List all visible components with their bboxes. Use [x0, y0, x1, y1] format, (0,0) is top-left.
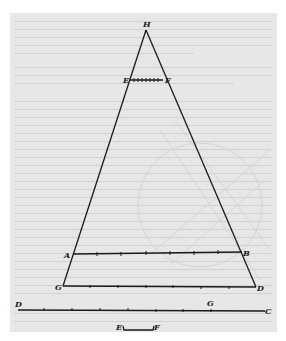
geometric-diagram: H E F A B G D D G C E F — [0, 0, 286, 341]
label-D: D — [256, 283, 264, 293]
base-GD — [63, 286, 256, 287]
side-HG — [63, 30, 146, 286]
label-H: H — [142, 19, 151, 29]
label-bracket-E: E — [115, 322, 123, 332]
side-HD — [146, 30, 256, 287]
label-G: G — [55, 282, 62, 292]
label-line-G: G — [207, 298, 214, 308]
division-ticks — [44, 78, 229, 312]
label-F: F — [164, 75, 172, 85]
label-line-C: C — [265, 306, 272, 316]
line-DC — [18, 310, 265, 311]
label-B: B — [242, 248, 250, 258]
label-E: E — [122, 75, 130, 85]
segment-AB — [73, 252, 242, 254]
label-A: A — [63, 250, 70, 260]
label-line-D: D — [14, 299, 22, 309]
bracket-EF — [123, 326, 154, 330]
bleed-through-figure — [138, 120, 270, 280]
label-bracket-F: F — [153, 322, 161, 332]
